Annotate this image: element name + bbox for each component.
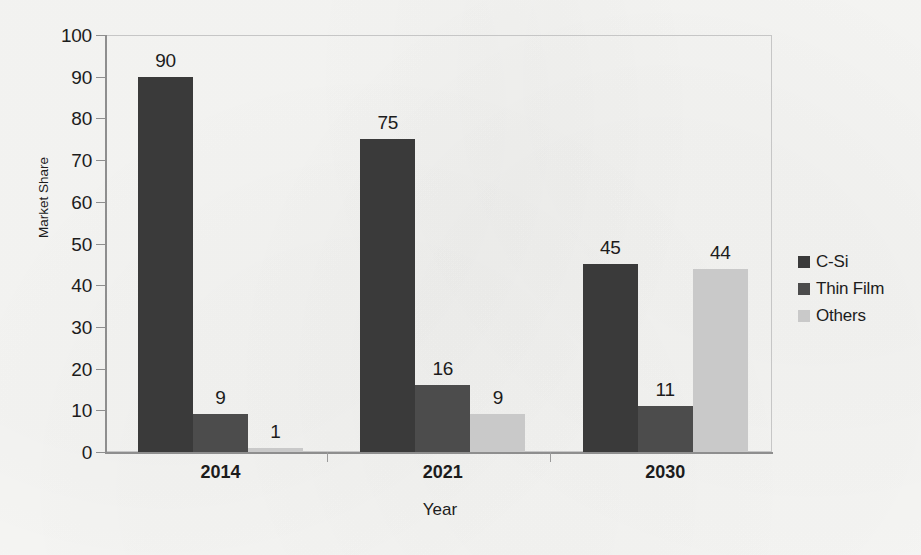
legend-swatch-icon — [798, 283, 810, 295]
y-axis-tick-label: 100 — [6, 26, 92, 45]
bar — [638, 406, 693, 452]
legend-swatch-icon — [798, 256, 810, 268]
y-axis-tick-label: 70 — [6, 151, 92, 170]
bar — [693, 269, 748, 452]
y-axis-tick — [96, 118, 105, 119]
y-axis-tick — [96, 327, 105, 328]
bar — [248, 448, 303, 452]
y-axis-tick — [96, 410, 105, 411]
x-axis-tick-label: 2021 — [423, 462, 463, 483]
legend-item: Thin Film — [798, 277, 884, 301]
x-axis-tick-label: 2014 — [200, 462, 240, 483]
x-axis-tick-label: 2030 — [645, 462, 685, 483]
legend-item: Others — [798, 304, 884, 328]
legend-item: C-Si — [798, 250, 884, 274]
y-axis-tick — [96, 369, 105, 370]
bar-chart: Market Share 0102030405060708090100 9091… — [0, 0, 921, 555]
chart-legend: C-SiThin FilmOthers — [798, 250, 884, 331]
x-axis-line — [105, 452, 773, 454]
bar-value-label: 16 — [433, 358, 454, 380]
y-axis-tick-label: 50 — [6, 234, 92, 253]
y-axis-tick — [96, 35, 105, 36]
legend-swatch-icon — [798, 310, 810, 322]
y-axis-tick — [96, 452, 105, 453]
bar-value-label: 75 — [378, 112, 399, 134]
y-axis-tick-label: 10 — [6, 401, 92, 420]
y-axis-tick-label: 60 — [6, 192, 92, 211]
bar-value-label: 45 — [600, 237, 621, 259]
bar — [415, 385, 470, 452]
x-axis-title: Year — [0, 500, 880, 520]
y-axis-tick-label: 90 — [6, 67, 92, 86]
bar — [583, 264, 638, 452]
bar-value-label: 44 — [710, 242, 731, 264]
legend-item-label: C-Si — [816, 252, 848, 272]
y-axis-tick — [96, 160, 105, 161]
bar — [138, 77, 193, 452]
x-axis-separator-tick — [550, 452, 551, 462]
y-axis-tick-label: 20 — [6, 359, 92, 378]
y-axis-tick-label: 0 — [6, 443, 92, 462]
bar-value-label: 9 — [493, 387, 503, 409]
bar-value-label: 1 — [270, 421, 280, 443]
bar-value-label: 11 — [656, 379, 675, 401]
x-axis-separator-tick — [327, 452, 328, 462]
legend-item-label: Others — [816, 306, 866, 326]
bar — [470, 414, 525, 452]
y-axis-tick-label: 40 — [6, 276, 92, 295]
y-axis-tick — [96, 244, 105, 245]
y-axis-tick-label: 80 — [6, 109, 92, 128]
bar-value-label: 90 — [155, 50, 176, 72]
legend-item-label: Thin Film — [816, 279, 884, 299]
bars-layer: 909175169451144 — [105, 35, 772, 452]
bar — [193, 414, 248, 452]
y-axis-tick-label: 30 — [6, 317, 92, 336]
y-axis-tick — [96, 77, 105, 78]
bar — [360, 139, 415, 452]
bar-value-label: 9 — [215, 387, 225, 409]
y-axis-tick — [96, 285, 105, 286]
y-axis-tick — [96, 202, 105, 203]
